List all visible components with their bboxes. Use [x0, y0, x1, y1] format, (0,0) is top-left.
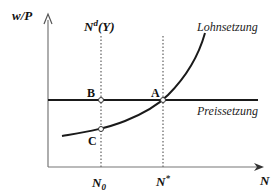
labor-demand-label: Nd(Y): [83, 18, 115, 34]
point-c-label: C: [88, 134, 97, 148]
wage-setting-curve: [62, 33, 205, 136]
point-b-label: B: [87, 86, 95, 100]
point-c-marker: [99, 127, 104, 132]
price-setting-label: Preissetzung: [196, 104, 258, 118]
point-a-marker: [161, 98, 166, 103]
x-axis-label: N: [259, 173, 270, 188]
nstar-tick-label: N*: [155, 173, 170, 189]
point-a-label: A: [151, 86, 160, 100]
y-axis-label: w/P: [12, 8, 33, 23]
wage-price-setting-diagram: w/P N Nd(Y) Lohnsetzung Preissetzung B A…: [0, 0, 279, 196]
point-b-marker: [99, 98, 104, 103]
n0-tick-label: N0: [91, 175, 106, 192]
wage-setting-label: Lohnsetzung: [196, 20, 258, 34]
